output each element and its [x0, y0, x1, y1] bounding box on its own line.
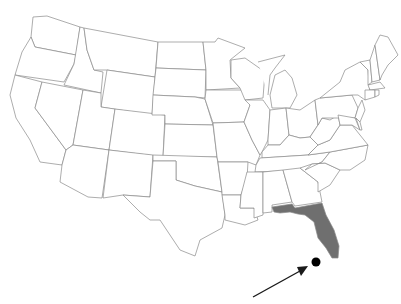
state-connecticut[interactable]: [365, 90, 375, 100]
location-marker-dot: [312, 258, 321, 267]
state-new-york[interactable]: [320, 62, 370, 100]
state-south-dakota[interactable]: [153, 68, 206, 98]
us-map: [0, 0, 401, 304]
state-kansas[interactable]: [163, 124, 217, 157]
state-north-dakota[interactable]: [156, 42, 206, 70]
state-rhode-island[interactable]: [375, 90, 379, 97]
state-colorado[interactable]: [109, 109, 165, 157]
state-new-mexico[interactable]: [103, 150, 153, 198]
arrow-icon: [253, 266, 308, 297]
state-arizona[interactable]: [60, 145, 109, 198]
state-florida[interactable]: [272, 203, 339, 258]
state-montana[interactable]: [84, 28, 158, 77]
